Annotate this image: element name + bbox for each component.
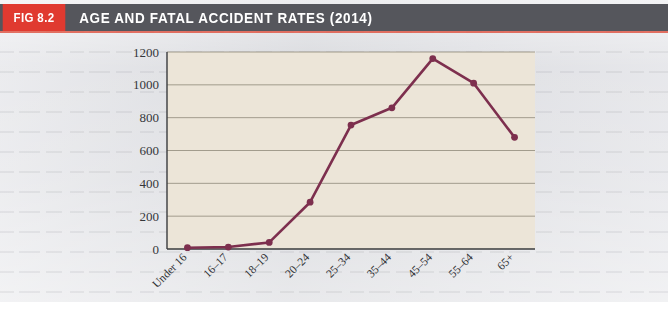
x-axis-tick-label: 16–17 [201,251,230,280]
data-point-marker [429,55,436,62]
figure-number-badge: FIG 8.2 [3,4,66,31]
chart-area: 020040060080010001200 Under 1616–1718–19… [0,33,668,302]
y-axis-tick-label: 800 [140,110,160,125]
y-axis-tick-label: 0 [153,242,160,257]
line-chart: 020040060080010001200 Under 1616–1718–19… [0,33,668,302]
x-axis-tick-label: 25–34 [324,251,353,280]
data-point-marker [511,134,518,141]
x-axis-tick-label: 45–54 [405,251,434,280]
y-axis-tick-label: 400 [140,176,160,191]
data-point-marker [225,244,232,251]
figure-header-bar: FIG 8.2 AGE AND FATAL ACCIDENT RATES (20… [0,4,668,31]
data-point-marker [470,80,477,87]
y-axis-tick-label: 1000 [133,77,159,92]
x-axis-tick-labels: Under 1616–1718–1920–2425–3435–4445–5455… [150,251,516,290]
x-axis-tick-label: 55–64 [446,251,475,280]
x-axis-tick-label: 35–44 [364,251,393,280]
y-axis-tick-label: 1200 [133,45,159,60]
y-axis-tick-labels: 020040060080010001200 [133,45,159,257]
y-axis-tick-label: 600 [140,143,160,158]
data-point-marker [184,244,191,251]
x-axis-tick-label: 18–19 [242,251,271,280]
x-axis-tick-label: 65+ [495,251,516,272]
x-axis-tick-label: Under 16 [150,251,189,290]
figure-title: AGE AND FATAL ACCIDENT RATES (2014) [68,4,626,31]
data-point-marker [348,122,355,129]
data-point-marker [388,104,395,111]
data-point-marker [266,239,273,246]
y-axis-tick-label: 200 [140,209,160,224]
figure-panel: FIG 8.2 AGE AND FATAL ACCIDENT RATES (20… [0,0,668,302]
data-point-marker [307,199,314,206]
x-axis-tick-label: 20–24 [283,251,312,280]
